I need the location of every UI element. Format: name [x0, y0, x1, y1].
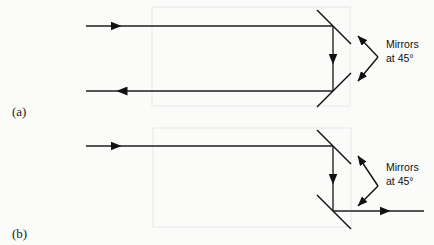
panel-b-callout-line1: Mirrors	[386, 161, 419, 173]
panel-a-label: (a)	[12, 104, 26, 119]
panel-b-label: (b)	[12, 226, 27, 241]
panel-a-callout-line1: Mirrors	[386, 38, 419, 50]
periscope-diagram: Mirrors at 45° (a) Mirrors at 45° (b)	[0, 0, 434, 245]
diagram-background	[0, 0, 434, 245]
panel-a-callout-line2: at 45°	[386, 52, 414, 64]
panel-b-callout-line2: at 45°	[386, 175, 414, 187]
